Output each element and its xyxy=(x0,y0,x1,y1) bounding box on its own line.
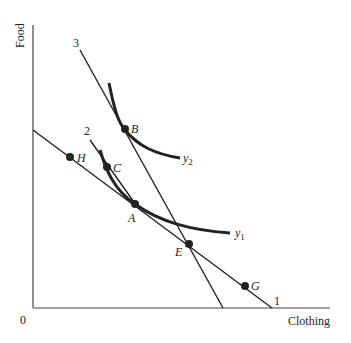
point-h xyxy=(66,153,74,161)
budget-line-3 xyxy=(80,50,223,308)
point-g-label: G xyxy=(251,279,260,293)
y-axis-label: Food xyxy=(13,23,27,48)
point-a xyxy=(131,200,139,208)
point-h-label: H xyxy=(76,151,87,165)
point-g xyxy=(241,282,249,290)
budget-line-1-label: 1 xyxy=(274,294,280,308)
indifference-curve-y2 xyxy=(109,83,180,158)
budget-line-3-label: 3 xyxy=(73,36,79,50)
consumer-choice-diagram: H C B A E G 1 2 3 y2 y1 Clothing Food 0 xyxy=(0,0,351,343)
point-b xyxy=(121,125,129,133)
point-b-label: B xyxy=(131,122,139,136)
budget-line-2-label: 2 xyxy=(84,124,90,138)
point-c-label: C xyxy=(113,161,122,175)
curve-y2-label: y2 xyxy=(182,151,193,167)
origin-label: 0 xyxy=(20,313,26,327)
point-e-label: E xyxy=(174,245,183,259)
x-axis-label: Clothing xyxy=(288,314,330,328)
point-a-label: A xyxy=(127,211,136,225)
point-c xyxy=(103,163,111,171)
point-e xyxy=(185,240,193,248)
curve-y1-label: y1 xyxy=(234,226,245,242)
